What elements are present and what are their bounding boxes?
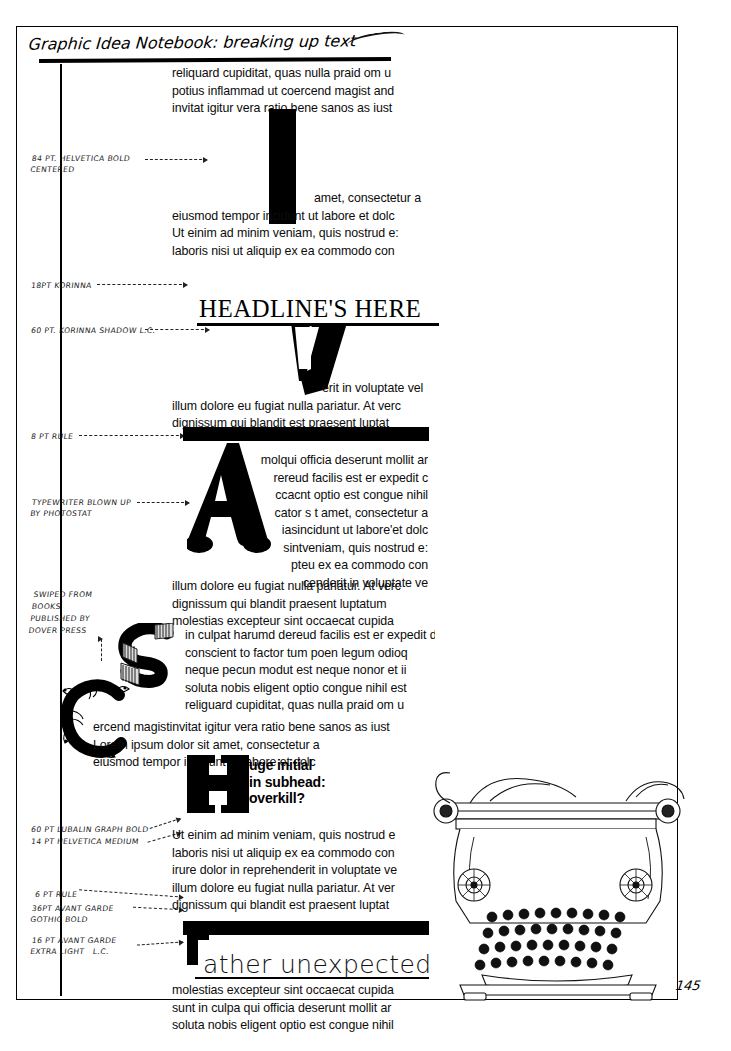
after-i-text: eiusmod tempor incidunt ut labore et dol… xyxy=(172,208,428,261)
intro-paragraph-block: reliquard cupiditat, quas nulla praid om… xyxy=(172,65,428,118)
annotation-dover-press: SWIPED FROM BOOKS PUBLISHED BY DOVER PRE… xyxy=(28,589,94,637)
intro-text: reliquard cupiditat, quas nulla praid om… xyxy=(172,65,428,118)
after-a-block: illum dolore eu fugiat nulla pariatur. A… xyxy=(172,578,428,631)
title-underline-rule xyxy=(39,57,391,63)
unexpected-underline-rule xyxy=(195,977,429,979)
after-h-text: Ut einim ad minim veniam, quis nostrud e… xyxy=(172,827,428,915)
annotation-rule-6pt: 6 pt RULE xyxy=(34,889,78,900)
headline-text: HEADLINE'S HERE xyxy=(199,295,421,323)
annotation-rule-8pt: 8 pt RULE xyxy=(30,431,74,442)
typewriter-wrap-block: molqui officia deserunt mollit ar rereud… xyxy=(172,452,428,592)
after-h-block: Ut einim ad minim veniam, quis nostrud e… xyxy=(172,827,428,915)
unexpected-headline: ather unexpected xyxy=(203,950,431,979)
rule-6pt-slug xyxy=(183,921,429,935)
page-title-handwritten: Graphic Idea Notebook: breaking up text xyxy=(28,31,357,53)
after-v-block: erit in voluptate vel illum dolore eu fu… xyxy=(172,380,428,433)
after-i-block: amet, consectetur a eiusmod tempor incid… xyxy=(172,190,428,260)
after-unexpected-block: molestias excepteur sint occaecat cupida… xyxy=(172,982,428,1035)
column-divider-rule xyxy=(60,64,62,996)
annotation-avant-garde-light: 16 PT AVANT GARDE EXTRA LIGHT L.C. xyxy=(29,935,117,957)
typewriter-illustration xyxy=(430,767,690,1002)
after-i-first-line: amet, consectetur a xyxy=(172,190,428,208)
after-a-text: illum dolore eu fugiat nulla pariatur. A… xyxy=(172,578,428,631)
annotation-helvetica-bold: 84 pt. HELVETICA BOLD CENTERED xyxy=(29,153,131,175)
leader-line-avant-garde-light xyxy=(137,941,183,945)
initial-letter-h xyxy=(187,755,249,813)
notebook-page: Graphic Idea Notebook: breaking up text … xyxy=(16,26,678,1000)
leader-line-korinna-shadow xyxy=(145,329,209,330)
typewriter-wrap-text: molqui officia deserunt mollit ar rereud… xyxy=(172,452,428,592)
after-v-first-line: erit in voluptate vel xyxy=(172,380,428,398)
annotation-typewriter-photostat: TYPEWRITER BLOWN UP BY PHOTOSTAT xyxy=(29,497,131,519)
after-unexpected-text: molestias excepteur sint occaecat cupida… xyxy=(172,982,428,1035)
annotation-lubalin-graph: 60 PT LUBALIN GRAPH BOLD xyxy=(30,824,149,835)
subhead-text: uge initial in subhead: overkill? xyxy=(249,757,325,807)
leader-line-rule-6pt xyxy=(79,889,183,897)
s-wrap-text: in culpat harumd dereud facilis est er e… xyxy=(167,627,435,715)
annotation-korinna-18: 18PT KORINNA xyxy=(30,280,92,291)
rule-8pt-slug xyxy=(183,427,429,441)
leader-line-rule-8pt xyxy=(79,435,184,436)
leader-line-helvetica-bold xyxy=(145,159,207,160)
annotation-korinna-shadow: 60 pt. KORINNA SHADOW L.C. xyxy=(30,325,156,336)
s-wrap-block: in culpat harumd dereud facilis est er e… xyxy=(167,627,435,715)
page-folio-number: 145 xyxy=(675,978,702,993)
leader-line-korinna-18 xyxy=(97,284,187,285)
leader-line-dover-press xyxy=(101,639,102,661)
annotation-avant-garde-bold: 36PT AVANT GARDE GOTHIC BOLD xyxy=(29,903,114,925)
annotation-helvetica-medium: 14 PT HELVETICA MEDIUM xyxy=(30,836,139,847)
